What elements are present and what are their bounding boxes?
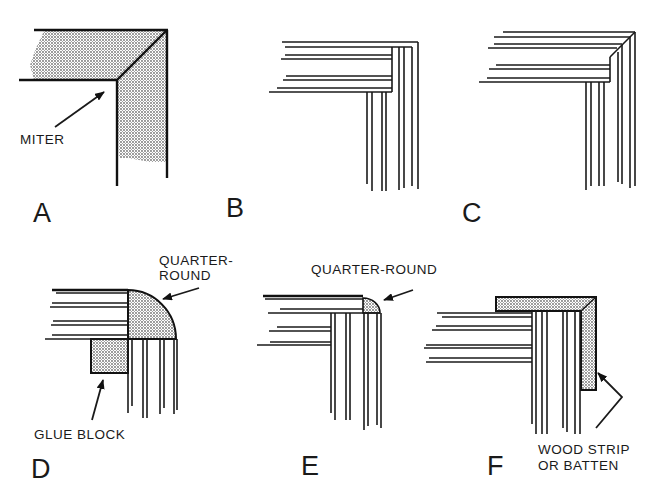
wood-strip-arrow <box>596 373 622 428</box>
wood-strip-callout-line1: WOOD STRIP <box>538 442 630 457</box>
quarter-round-arrow-e <box>384 290 413 300</box>
panel-f-joint: WOOD STRIP OR BATTEN F <box>424 297 630 481</box>
miter-callout: MITER <box>20 132 65 147</box>
joint-diagram: MITER A B <box>0 0 671 493</box>
panel-label-b: B <box>226 193 244 223</box>
glue-block-callout: GLUE BLOCK <box>34 427 125 442</box>
panel-a-miter-joint: MITER A <box>19 30 168 228</box>
panel-d-joint: QUARTER- ROUND GLUE BLOCK D <box>31 253 233 484</box>
panel-b-joint: B <box>226 42 418 223</box>
panel-label-d: D <box>31 454 51 484</box>
quarter-round-callout-e: QUARTER-ROUND <box>311 262 437 277</box>
panel-label-a: A <box>33 198 51 228</box>
panel-c-joint: C <box>462 32 635 228</box>
quarter-round-arrow-d <box>163 288 199 299</box>
quarter-round-callout-d-line1: QUARTER- <box>159 253 233 268</box>
panel-e-quarter-round <box>363 298 380 313</box>
panel-e-joint: QUARTER-ROUND E <box>257 262 437 481</box>
panel-label-f: F <box>487 451 504 481</box>
quarter-round-callout-d-line2: ROUND <box>159 268 211 283</box>
panel-d-glue-block <box>91 339 128 373</box>
glue-block-arrow <box>92 380 103 420</box>
panel-label-e: E <box>301 451 319 481</box>
miter-arrow <box>55 92 104 127</box>
panel-label-c: C <box>462 198 482 228</box>
wood-strip-callout-line2: OR BATTEN <box>538 458 619 473</box>
